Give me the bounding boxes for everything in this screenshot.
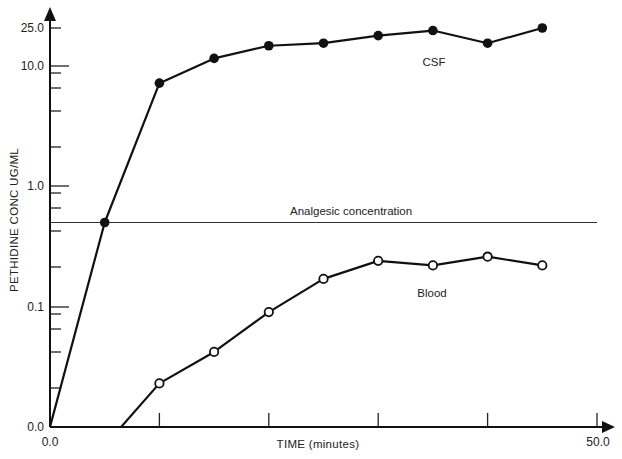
csf-data-point — [428, 26, 438, 36]
y-tick-label-0: 0.0 — [27, 420, 44, 434]
y-tick-label-25: 25.0 — [21, 21, 45, 35]
csf-data-point — [538, 23, 548, 33]
csf-series-label: CSF — [423, 56, 446, 68]
blood-series — [121, 252, 546, 426]
blood-line — [121, 257, 542, 427]
blood-data-point — [374, 257, 382, 265]
blood-data-point — [483, 252, 491, 260]
x-axis-ticks — [159, 413, 597, 427]
y-axis-arrowhead — [44, 7, 56, 21]
csf-data-point — [100, 218, 110, 228]
csf-data-point — [373, 31, 383, 41]
csf-data-point — [483, 38, 493, 48]
csf-data-point — [209, 54, 219, 64]
csf-series — [50, 23, 547, 427]
csf-data-point — [155, 78, 165, 88]
y-axis-title: PETHIDINE CONC UG/ML — [8, 148, 20, 292]
x-tick-label-0: 0.0 — [42, 435, 59, 449]
blood-data-point — [155, 379, 163, 387]
x-tick-label-50: 50.0 — [586, 435, 610, 449]
blood-series-label: Blood — [417, 287, 446, 299]
y-axis-ticks — [50, 28, 69, 388]
analgesic-concentration-label: Analgesic concentration — [290, 205, 412, 217]
blood-data-point — [319, 275, 327, 283]
blood-data-point — [210, 348, 218, 356]
blood-data-point — [538, 261, 546, 269]
y-tick-label-1: 1.0 — [27, 179, 44, 193]
y-tick-label-0-1: 0.1 — [27, 300, 44, 314]
blood-data-point — [265, 308, 273, 316]
series-layer — [50, 23, 547, 427]
csf-line — [50, 28, 542, 427]
x-axis-arrowhead — [602, 421, 615, 433]
y-tick-label-10: 10.0 — [21, 59, 45, 73]
blood-data-point — [429, 261, 437, 269]
x-axis-title: TIME (minutes) — [277, 438, 360, 450]
pethidine-concentration-chart: PETHIDINE CONC UG/ML 25.0 10.0 1.0 0.1 0… — [0, 0, 622, 459]
csf-data-point — [264, 41, 274, 51]
csf-data-point — [319, 38, 329, 48]
